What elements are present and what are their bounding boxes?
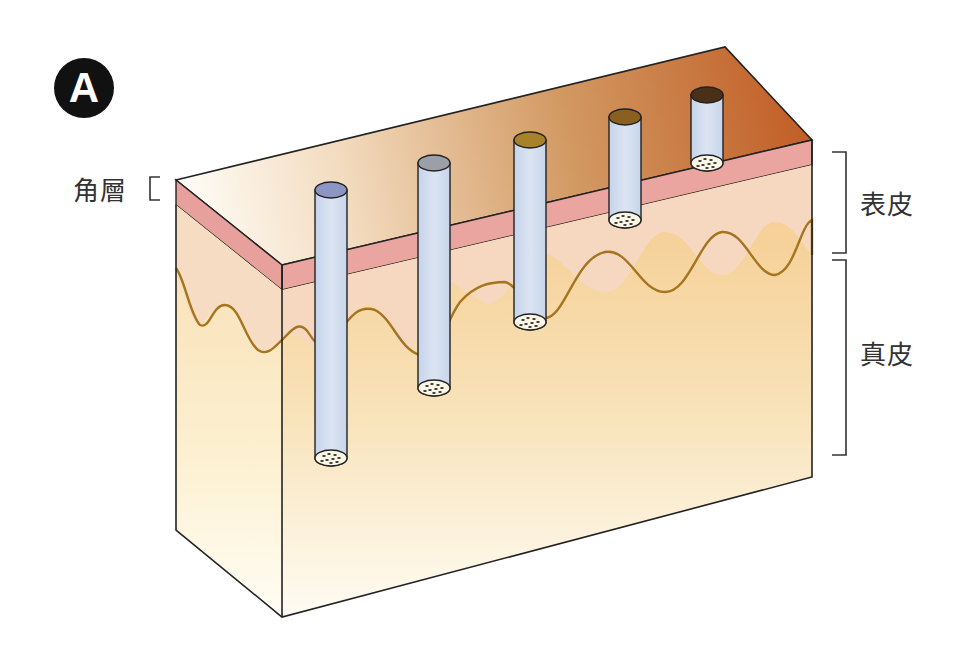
cell-dot (614, 222, 618, 224)
cell-dot (619, 221, 623, 223)
cell-dot (631, 219, 635, 221)
cell-dot (623, 224, 627, 226)
cell-dot (440, 387, 444, 389)
cell-dot (337, 457, 341, 459)
cell-dot (333, 454, 337, 456)
follicle-3-shaft (514, 140, 546, 330)
cell-dot (707, 163, 711, 165)
cell-dot (629, 223, 633, 225)
cell-dot (528, 326, 532, 328)
cell-dot (425, 385, 429, 387)
cell-dot (331, 458, 335, 460)
cell-dot (320, 460, 324, 462)
stratum-corneum-bracket (150, 177, 160, 200)
follicle-4 (609, 109, 641, 228)
cell-dot (713, 162, 717, 164)
cell-dot (705, 167, 709, 169)
follicle-2-cap (418, 155, 450, 171)
cell-dot (423, 390, 427, 392)
follicle-1-shaft (315, 190, 347, 466)
cell-dot (530, 322, 534, 324)
cell-dot (436, 384, 440, 386)
follicle-2-shaft (418, 163, 450, 396)
dermis-bracket (832, 260, 846, 455)
follicle-1 (315, 182, 347, 466)
cell-dot (335, 461, 339, 463)
cell-dot (698, 160, 702, 162)
cell-dot (432, 392, 436, 394)
cell-dot (534, 325, 538, 327)
follicle-5-cap (691, 87, 723, 103)
cell-dot (521, 319, 525, 321)
cell-dot (703, 158, 707, 160)
epidermis-bracket (832, 152, 846, 253)
cell-dot (526, 317, 530, 319)
cell-dot (327, 453, 331, 455)
cell-dot (536, 321, 540, 323)
stratum-corneum-label: 角層 (73, 170, 127, 207)
follicle-3 (514, 132, 546, 330)
cell-dot (711, 166, 715, 168)
cell-dot (524, 323, 528, 325)
dermis-label: 真皮 (860, 334, 914, 371)
follicle-2 (418, 155, 450, 396)
cell-dot (621, 215, 625, 217)
follicle-1-cap (315, 182, 347, 198)
skin-block-diagram (0, 0, 975, 669)
follicle-5 (691, 87, 723, 171)
cell-dot (709, 159, 713, 161)
cell-dot (519, 324, 523, 326)
cell-dot (329, 462, 333, 464)
cell-dot (616, 217, 620, 219)
follicle-3-cap (514, 132, 546, 148)
follicle-4-cap (609, 109, 641, 125)
cell-dot (430, 383, 434, 385)
cell-dot (434, 388, 438, 390)
cell-dot (532, 318, 536, 320)
cell-dot (322, 455, 326, 457)
cell-dot (428, 389, 432, 391)
cell-dot (696, 165, 700, 167)
cell-dot (627, 216, 631, 218)
epidermis-label: 表皮 (860, 184, 914, 221)
cell-dot (625, 220, 629, 222)
cell-dot (701, 164, 705, 166)
cell-dot (438, 391, 442, 393)
cell-dot (325, 459, 329, 461)
